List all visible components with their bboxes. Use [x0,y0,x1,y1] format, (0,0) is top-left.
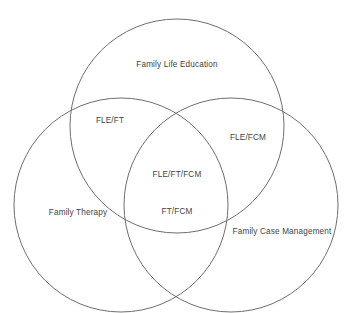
label-ft-fcm-intersection: FT/FCM [162,208,193,216]
circle-family-therapy [14,98,228,312]
label-fle-ft-fcm-intersection: FLE/FT/FCM [153,171,202,179]
venn-diagram: Family Life Education FLE/FT FLE/FCM FLE… [0,0,352,313]
circle-family-life-education [70,19,284,233]
label-family-case-management: Family Case Management [233,228,332,236]
label-fle-fcm-intersection: FLE/FCM [230,134,266,142]
label-fle-ft-intersection: FLE/FT [96,117,124,125]
venn-circles-canvas [0,0,352,313]
label-family-therapy: Family Therapy [49,209,107,217]
circle-family-case-management [124,98,338,312]
label-family-life-education: Family Life Education [136,61,217,69]
